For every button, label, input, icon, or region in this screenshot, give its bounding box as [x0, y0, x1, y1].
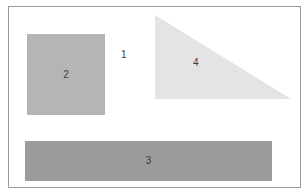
triangle-shape-4: 4	[155, 15, 291, 99]
square-shape-2: 2	[27, 34, 105, 115]
diagram-frame: 1 2 4 3	[8, 6, 301, 188]
label-1: 1	[121, 50, 127, 60]
label-4: 4	[193, 58, 199, 68]
label-2: 2	[63, 70, 69, 80]
triangle-icon	[155, 15, 291, 99]
bar-shape-3: 3	[25, 141, 272, 181]
label-3: 3	[146, 156, 152, 166]
